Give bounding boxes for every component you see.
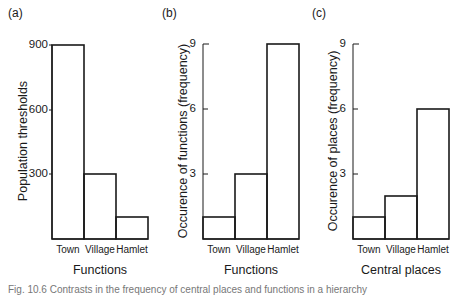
bar-c-hamlet [417, 109, 449, 239]
bar-a-hamlet [116, 217, 148, 239]
panel-c-cat-town: Town [353, 244, 385, 255]
figure-caption: Fig. 10.6 Contrasts in the frequency of … [8, 284, 367, 295]
panel-c-cat-hamlet: Hamlet [417, 244, 449, 255]
bar-b-hamlet [267, 44, 299, 239]
bar-c-village [385, 196, 417, 239]
panel-b-cat-village: Village [235, 244, 267, 255]
panel-b-chart [203, 44, 299, 239]
panel-a-cat-village: Village [84, 244, 116, 255]
panel-b-xlabel: Functions [201, 263, 301, 277]
panel-b-cat-hamlet: Hamlet [267, 244, 299, 255]
bar-a-town [52, 45, 84, 239]
bar-b-village [235, 174, 267, 239]
bar-a-village [84, 174, 116, 239]
panel-b-cat-town: Town [203, 244, 235, 255]
panel-c-chart [353, 44, 449, 239]
bar-b-town [203, 217, 235, 239]
panel-a-cat-town: Town [52, 244, 84, 255]
panel-c-xlabel: Central places [351, 263, 451, 277]
bar-c-town [353, 217, 385, 239]
panel-c-cat-village: Village [385, 244, 417, 255]
panel-a-cat-hamlet: Hamlet [116, 244, 148, 255]
panel-a-xlabel: Functions [50, 263, 150, 277]
panel-a-chart [49, 45, 148, 239]
